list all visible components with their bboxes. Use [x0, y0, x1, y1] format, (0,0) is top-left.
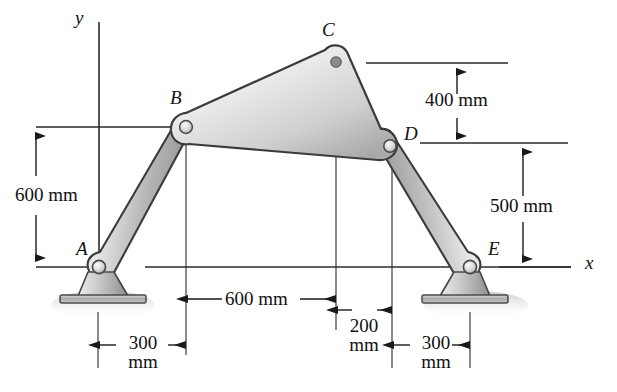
- coupler-triangle-b-c-d: [171, 45, 397, 160]
- pin-joint-e: [463, 260, 476, 273]
- pin-joint-c: [331, 57, 341, 67]
- engineering-diagram: y x A B C D E 600 mm 400 mm 500 mm 600 m…: [0, 0, 617, 392]
- base-plate-e: [422, 295, 508, 303]
- pin-joint-d: [384, 140, 396, 152]
- dimension-label-200-line2: mm: [338, 335, 390, 354]
- dimension-label-600-span: 600 mm: [225, 289, 288, 308]
- point-label-a: A: [76, 239, 88, 258]
- dimension-label-300-right-line1: 300: [409, 333, 463, 352]
- x-axis-label: x: [585, 253, 593, 272]
- pin-joint-a: [92, 260, 105, 273]
- base-plate-a: [60, 295, 146, 303]
- dimension-label-500: 500 mm: [490, 196, 553, 215]
- dimension-label-200: 200 mm: [338, 316, 390, 355]
- dimension-label-300-right-line2: mm: [409, 352, 463, 371]
- dimension-label-600-height: 600 mm: [15, 185, 78, 204]
- point-label-e: E: [488, 239, 500, 258]
- dimension-label-300-left-line2: mm: [116, 352, 170, 371]
- y-axis-label: y: [75, 8, 83, 27]
- point-label-d: D: [404, 124, 418, 143]
- dimension-label-200-line1: 200: [338, 316, 390, 335]
- dimension-label-300-left-line1: 300: [116, 333, 170, 352]
- point-label-c: C: [322, 20, 335, 39]
- dimension-label-300-right: 300 mm: [409, 333, 463, 372]
- dimension-label-400: 400 mm: [425, 90, 488, 109]
- pin-joint-b: [180, 121, 193, 134]
- dimension-label-300-left: 300 mm: [116, 333, 170, 372]
- point-label-b: B: [170, 88, 182, 107]
